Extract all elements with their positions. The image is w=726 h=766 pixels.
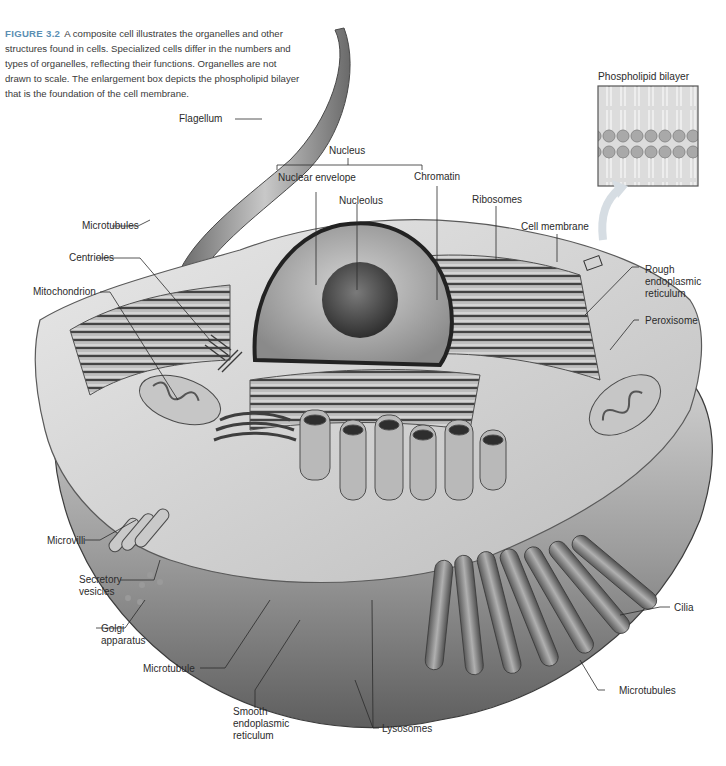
label-peroxisome: Peroxisome — [645, 315, 698, 327]
label-microvilli: Microvilli — [47, 535, 85, 547]
nucleolus-shape — [322, 262, 398, 338]
figure-caption: FIGURE 3.2A composite cell illustrates t… — [5, 26, 305, 101]
label-mitochondrion: Mitochondrion — [33, 286, 96, 298]
label-lysosomes: Lysosomes — [382, 723, 432, 735]
label-nucleus: Nucleus — [329, 145, 365, 157]
label-smooth-er: Smooth endoplasmic reticulum — [233, 706, 289, 742]
label-flagellum: Flagellum — [179, 113, 222, 125]
label-microtubules-bottom: Microtubules — [619, 685, 676, 697]
label-secretory-vesicles: Secretory vesicles — [79, 574, 122, 598]
label-nuclear-envelope: Nuclear envelope — [278, 172, 356, 184]
label-cilia: Cilia — [674, 602, 693, 614]
label-golgi-apparatus: Golgi apparatus — [101, 623, 145, 647]
figure-number: FIGURE 3.2 — [5, 28, 60, 39]
cell-illustration — [0, 0, 726, 766]
label-centrioles: Centrioles — [69, 252, 114, 264]
inset-title: Phospholipid bilayer — [598, 71, 689, 82]
label-nucleolus: Nucleolus — [339, 195, 383, 207]
label-microtubules-top: Microtubules — [82, 220, 139, 232]
label-chromatin: Chromatin — [414, 171, 460, 183]
bilayer-inset — [598, 86, 698, 186]
label-cell-membrane: Cell membrane — [521, 221, 589, 233]
label-rough-er: Rough endoplasmic reticulum — [645, 264, 701, 300]
label-microtubule: Microtubule — [143, 663, 195, 675]
label-ribosomes: Ribosomes — [472, 194, 522, 206]
